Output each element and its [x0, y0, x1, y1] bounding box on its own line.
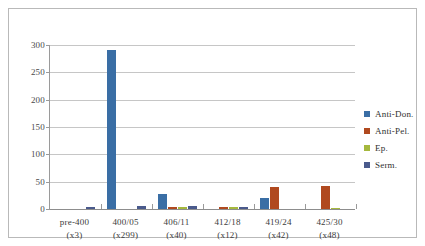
x-axis-label: 400/05(x299)	[100, 216, 151, 242]
chart-legend: Anti-Don.Anti-Pel.Ep.Serm.	[364, 109, 414, 170]
x-axis-label-primary: pre-400	[60, 217, 89, 227]
bar	[270, 187, 279, 209]
bar	[188, 206, 197, 209]
bar-group	[152, 45, 203, 209]
bar	[178, 207, 187, 209]
x-axis-label-count: (x12)	[202, 229, 253, 242]
y-axis-tick-label: 200	[31, 95, 45, 105]
legend-label: Anti-Don.	[375, 109, 414, 119]
legend-swatch-icon	[364, 145, 370, 151]
bar-group	[50, 45, 101, 209]
x-axis-label-count: (x3)	[49, 229, 100, 242]
chart-frame: 050100150200250300 pre-400(x3)400/05(x29…	[8, 8, 417, 238]
chart-figure: 050100150200250300 pre-400(x3)400/05(x29…	[0, 0, 425, 246]
bar	[321, 186, 330, 210]
legend-item[interactable]: Anti-Pel.	[364, 126, 414, 136]
bar	[229, 207, 238, 209]
x-axis-label-primary: 412/18	[214, 217, 240, 227]
gridline	[50, 209, 355, 210]
legend-swatch-icon	[364, 162, 370, 168]
legend-label: Serm.	[375, 160, 397, 170]
bar	[86, 207, 95, 209]
plot-area: 050100150200250300	[49, 45, 355, 209]
bar-group	[101, 45, 152, 209]
x-axis-label-primary: 406/11	[164, 217, 190, 227]
legend-item[interactable]: Anti-Don.	[364, 109, 414, 119]
legend-item[interactable]: Serm.	[364, 160, 414, 170]
x-axis-label: 419/24(x42)	[253, 216, 304, 242]
bar	[331, 208, 340, 209]
legend-item[interactable]: Ep.	[364, 143, 414, 153]
y-axis-tick-label: 150	[31, 122, 45, 132]
legend-label: Anti-Pel.	[375, 126, 410, 136]
bar-group	[305, 45, 356, 209]
y-axis-tick-label: 300	[31, 40, 45, 50]
x-axis-label-count: (x42)	[253, 229, 304, 242]
bar	[168, 207, 177, 209]
y-axis-tick-label: 100	[31, 149, 45, 159]
x-axis-label-primary: 419/24	[265, 217, 291, 227]
bar	[219, 207, 228, 209]
x-axis-label-count: (x48)	[304, 229, 355, 242]
x-axis-label-primary: 425/30	[316, 217, 342, 227]
x-axis-label: 412/18(x12)	[202, 216, 253, 242]
bar-group	[254, 45, 305, 209]
x-axis-label-count: (x299)	[100, 229, 151, 242]
x-axis-label-primary: 400/05	[112, 217, 138, 227]
x-axis-label: 406/11(x40)	[151, 216, 202, 242]
x-axis-label: pre-400(x3)	[49, 216, 100, 242]
y-axis-tick-label: 0	[40, 204, 45, 214]
bar	[260, 198, 269, 209]
y-axis-tick-label: 50	[36, 177, 45, 187]
y-axis-tick-label: 250	[31, 67, 45, 77]
x-axis-label-count: (x40)	[151, 229, 202, 242]
legend-swatch-icon	[364, 128, 370, 134]
y-axis-tick-mark	[46, 209, 50, 210]
bar	[137, 206, 146, 209]
bar	[239, 207, 248, 209]
legend-label: Ep.	[375, 143, 388, 153]
x-axis-tick-mark	[356, 204, 357, 209]
x-axis-label: 425/30(x48)	[304, 216, 355, 242]
bar	[107, 50, 116, 209]
legend-swatch-icon	[364, 111, 370, 117]
bar	[158, 194, 167, 209]
bar-group	[203, 45, 254, 209]
